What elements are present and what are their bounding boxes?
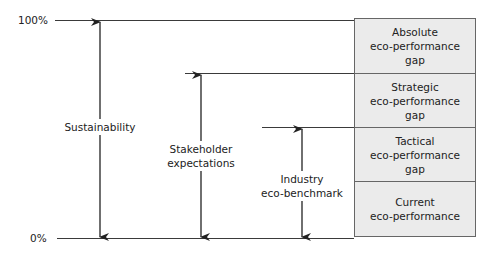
cell-absolute-gap: Absolute eco-performance gap	[355, 19, 475, 74]
stakeholder-label: Stakeholder expectations	[162, 141, 240, 171]
industry-label: Industry eco-benchmark	[260, 171, 344, 201]
cell-tactical-gap: Tactical eco-performance gap	[355, 128, 475, 182]
cell-strategic-gap: Strategic eco-performance gap	[355, 74, 475, 128]
cell-current-performance: Current eco-performance	[355, 182, 475, 236]
eco-performance-stack: Absolute eco-performance gap Strategic e…	[354, 18, 476, 237]
sustainability-label: Sustainability	[60, 119, 140, 135]
